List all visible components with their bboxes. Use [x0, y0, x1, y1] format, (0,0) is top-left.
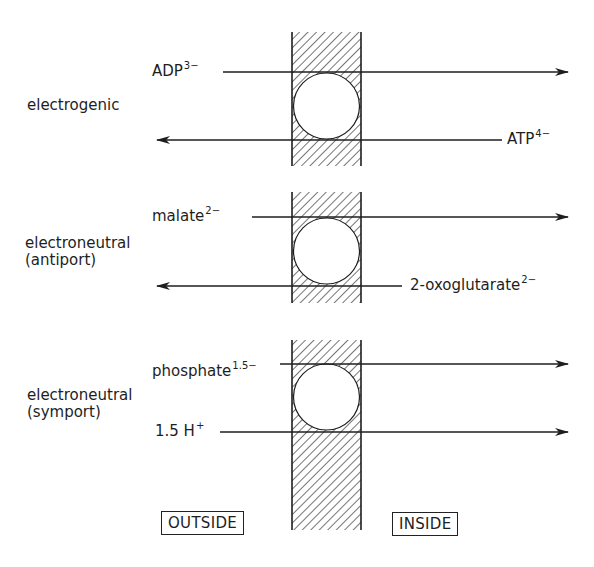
type-label: electroneutral [27, 387, 132, 404]
species-charge: 2− [205, 205, 220, 216]
species-charge: 1.5− [232, 360, 256, 371]
species-name: phosphate [152, 362, 231, 380]
inside-compartment-label: INSIDE [392, 512, 458, 536]
species-name: 2-oxoglutarate [410, 276, 520, 294]
transporter-type-symport: electroneutral (symport) [27, 387, 132, 421]
species-adp: ADP3− [152, 63, 199, 81]
transporter-type-antiport: electroneutral (antiport) [25, 235, 130, 269]
carrier-circle-icon [294, 218, 360, 284]
type-label: electroneutral [25, 235, 130, 252]
species-name: malate [152, 207, 204, 225]
species-name: ADP [152, 62, 183, 80]
species-charge: 3− [184, 60, 199, 71]
carrier-circle-icon [294, 364, 360, 430]
outside-compartment-label: OUTSIDE [161, 511, 244, 535]
species-2-oxoglutarate: 2-oxoglutarate2− [410, 277, 536, 295]
species-name: ATP [507, 130, 534, 148]
species-atp: ATP4− [507, 131, 550, 149]
type-sublabel: (antiport) [25, 252, 130, 269]
carrier-circle-icon [294, 73, 360, 139]
species-charge: + [196, 420, 204, 431]
species-phosphate: phosphate1.5− [152, 363, 257, 381]
species-malate: malate2− [152, 208, 220, 226]
species-proton: 1.5 H+ [155, 423, 204, 441]
transporter-type-electrogenic: electrogenic [27, 97, 119, 114]
species-charge: 2− [521, 274, 536, 285]
species-name: 1.5 H [155, 422, 195, 440]
type-sublabel: (symport) [27, 404, 132, 421]
species-charge: 4− [535, 128, 550, 139]
